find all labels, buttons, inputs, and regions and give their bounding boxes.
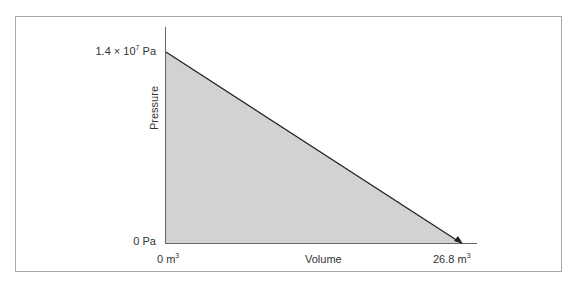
x-tick-zero: 0 m3 (157, 253, 179, 265)
x-axis-label: Volume (305, 253, 342, 265)
pv-chart (0, 0, 579, 287)
y-tick-max: 1.4 × 107 Pa (96, 45, 157, 57)
y-tick-zero: 0 Pa (133, 235, 156, 247)
x-tick-max: 26.8 m3 (433, 253, 471, 265)
y-axis-label: Pressure (148, 86, 160, 130)
